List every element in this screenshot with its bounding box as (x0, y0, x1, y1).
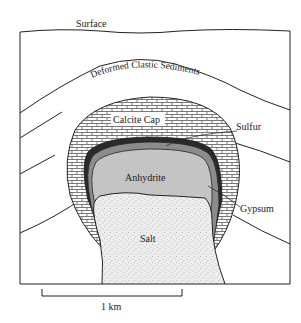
gypsum-label: Gypsum (240, 203, 274, 214)
salt-label: Salt (140, 233, 156, 244)
salt-dome-cross-section: Surface Deformed Clastic Sediments Calci… (0, 0, 301, 323)
calcite-cap-label: Calcite Cap (113, 114, 160, 125)
sulfur-label: Sulfur (236, 121, 262, 132)
anhydrite-label: Anhydrite (125, 172, 166, 183)
scale-bar-label: 1 km (101, 301, 122, 312)
scale-bar (42, 289, 182, 296)
salt-body (94, 193, 225, 284)
surface-label: Surface (76, 18, 107, 29)
